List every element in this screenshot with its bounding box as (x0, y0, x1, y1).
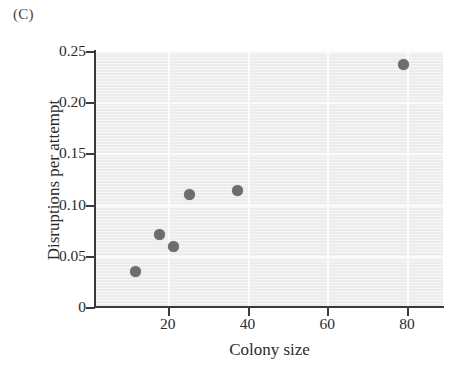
x-tick-label: 40 (228, 315, 268, 333)
gridline-vertical (327, 51, 329, 307)
data-point (232, 185, 243, 196)
data-point (130, 266, 141, 277)
gridline-horizontal (96, 205, 443, 207)
y-tick-mark (86, 102, 95, 104)
gridline-vertical (407, 51, 409, 307)
y-tick-mark (86, 256, 95, 258)
data-point (154, 229, 165, 240)
data-point (184, 189, 195, 200)
x-tick-label: 60 (307, 315, 347, 333)
gridline-horizontal (96, 102, 443, 104)
gridline-vertical (168, 51, 170, 307)
gridline-horizontal (96, 153, 443, 155)
figure-panel: (C) 00.050.100.150.200.25 20406080 Colon… (0, 0, 450, 384)
x-axis-spine (94, 306, 444, 308)
x-tick-label: 80 (387, 315, 427, 333)
y-tick-mark (86, 51, 95, 53)
y-axis-spine (94, 50, 96, 308)
x-axis-title: Colony size (96, 340, 443, 360)
y-tick-mark (86, 205, 95, 207)
data-point (168, 241, 179, 252)
y-axis-title: Disruptions per attempt (44, 30, 64, 330)
gridline-horizontal (96, 256, 443, 258)
x-tick-label: 20 (148, 315, 188, 333)
plot-background-texture (96, 51, 443, 307)
y-tick-mark (86, 307, 95, 309)
data-point (398, 59, 409, 70)
gridline-horizontal (96, 51, 443, 53)
plot-area (96, 51, 443, 307)
gridline-vertical (248, 51, 250, 307)
y-tick-mark (86, 153, 95, 155)
